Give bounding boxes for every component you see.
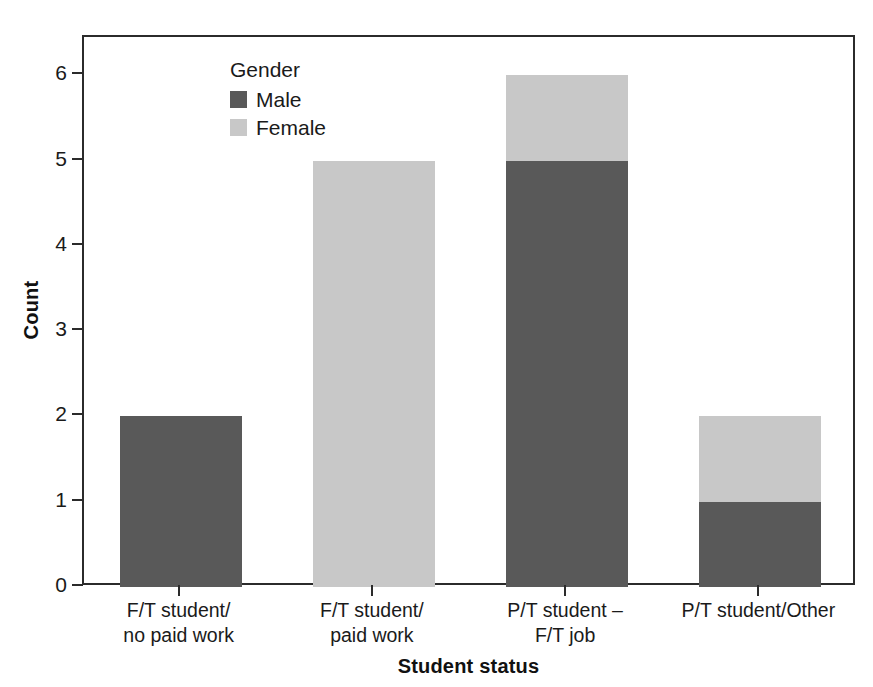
x-tick-mark: [757, 585, 759, 596]
legend-label: Female: [256, 117, 326, 138]
x-tick-label-line: P/T student –: [455, 598, 675, 623]
bar-segment: [699, 502, 821, 587]
chart-figure: Count 0123456 Gender MaleFemale F/T stud…: [0, 0, 873, 687]
legend-swatch-female: [230, 119, 247, 136]
x-tick-mark: [564, 585, 566, 596]
x-tick-label: F/T student/no paid work: [69, 598, 289, 648]
bar-segment: [699, 416, 821, 501]
bar-segment: [506, 75, 628, 160]
x-tick-label: P/T student –F/T job: [455, 598, 675, 648]
bar-segment: [506, 161, 628, 587]
plot-area: Gender MaleFemale: [82, 35, 855, 585]
x-tick-label: F/T student/paid work: [262, 598, 482, 648]
legend-label: Male: [256, 89, 302, 110]
legend: Gender MaleFemale: [230, 58, 350, 141]
legend-entry: Male: [230, 85, 350, 113]
legend-title: Gender: [230, 58, 350, 82]
x-tick-label-line: no paid work: [69, 623, 289, 648]
x-tick-label-line: P/T student/Other: [648, 598, 868, 623]
legend-swatch-male: [230, 91, 247, 108]
x-tick-label-line: paid work: [262, 623, 482, 648]
x-axis-title: Student status: [82, 655, 855, 678]
x-tick-label-line: F/T job: [455, 623, 675, 648]
x-tick-mark: [178, 585, 180, 596]
bar-segment: [120, 416, 242, 587]
x-tick-label: P/T student/Other: [648, 598, 868, 623]
x-tick-label-line: F/T student/: [69, 598, 289, 623]
bar-segment: [313, 161, 435, 587]
legend-entries: MaleFemale: [230, 85, 350, 141]
legend-entry: Female: [230, 113, 350, 141]
x-tick-mark: [371, 585, 373, 596]
x-tick-label-line: F/T student/: [262, 598, 482, 623]
